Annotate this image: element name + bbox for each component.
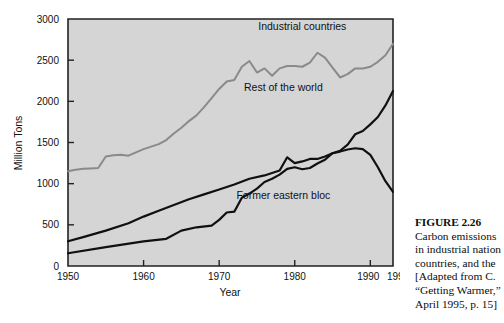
plot-background [68, 19, 393, 266]
y-axis-title: Million Tons [12, 116, 24, 171]
figure-2-26: 050010001500200025003000 195019601970198… [0, 0, 504, 323]
x-tick-label: 1990 [357, 271, 380, 282]
chart-container: 050010001500200025003000 195019601970198… [0, 0, 400, 323]
x-tick-label: 1993 [387, 271, 400, 282]
y-tick-label: 2000 [37, 96, 60, 107]
x-tick-label: 1980 [284, 271, 307, 282]
y-tick-label: 1000 [37, 178, 60, 189]
x-tick-label: 1950 [57, 271, 80, 282]
caption-line: in industrial nation [415, 243, 504, 257]
series-label-1: Rest of the world [244, 81, 323, 93]
y-tick-label: 1500 [37, 137, 60, 148]
series-label-0: Industrial countries [258, 20, 346, 32]
y-tick-label: 3000 [37, 14, 60, 25]
line-chart: 050010001500200025003000 195019601970198… [0, 0, 400, 323]
x-tick-label: 1960 [132, 271, 155, 282]
caption-line: countries, and the [415, 257, 504, 271]
caption-title: FIGURE 2.26 [415, 216, 504, 230]
y-tick-label: 0 [53, 261, 59, 272]
x-tick-label: 1970 [208, 271, 231, 282]
figure-caption: FIGURE 2.26 Carbon emissions in industri… [415, 216, 504, 311]
caption-line: [Adapted from C. [415, 270, 504, 284]
caption-line: Carbon emissions [415, 230, 504, 244]
caption-line: “Getting Warmer,” [415, 284, 504, 298]
y-tick-label: 500 [42, 219, 59, 230]
series-label-2: Former eastern bloc [236, 189, 330, 201]
caption-line: April 1995, p. 15] [415, 298, 504, 312]
x-axis-title: Year [219, 286, 241, 298]
y-tick-label: 2500 [37, 55, 60, 66]
